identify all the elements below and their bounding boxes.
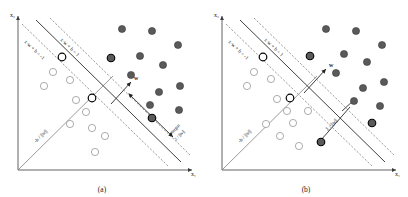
normal-vector-arrow bbox=[111, 82, 131, 104]
upper-margin-line bbox=[254, 18, 394, 155]
negative-support-vectors bbox=[259, 53, 294, 102]
x-axis-label: x₁ bbox=[395, 171, 400, 177]
panel-a-caption: (a) bbox=[0, 185, 204, 194]
upper-margin-line bbox=[50, 18, 190, 155]
origin-offset-line bbox=[223, 76, 317, 169]
origin-offset-line bbox=[19, 76, 113, 169]
svm-margin-figure: w x·w + b = 1 x·w + b = -1 -b / ||w|| ma… bbox=[0, 0, 408, 197]
lower-margin-equation: x·w + b = -1 bbox=[227, 38, 250, 61]
y-axis-label: x₂ bbox=[214, 12, 219, 18]
origin-offset-label: -b / ||w|| bbox=[236, 128, 252, 144]
lower-margin-equation: x·w + b = -1 bbox=[23, 38, 46, 61]
positive-support-vectors bbox=[107, 54, 156, 122]
positive-class-points bbox=[118, 25, 183, 113]
panel-a-plot: w x·w + b = 1 x·w + b = -1 -b / ||w|| ma… bbox=[0, 0, 204, 197]
misclassified-point bbox=[317, 138, 325, 146]
panel-b: w ξ / ||w|| x·w + b = 1 x·w + b = -1 -b … bbox=[204, 0, 408, 197]
panel-a: w x·w + b = 1 x·w + b = -1 -b / ||w|| ma… bbox=[0, 0, 204, 197]
origin-offset-label: -b / ||w|| bbox=[32, 128, 48, 144]
normal-vector-label: w bbox=[329, 62, 334, 68]
slack-label: ξ / ||w|| bbox=[324, 117, 339, 132]
y-axis-label: x₂ bbox=[10, 12, 15, 18]
panel-b-caption: (b) bbox=[204, 185, 408, 194]
positive-support-vectors bbox=[306, 52, 376, 146]
normal-vector-arrow bbox=[304, 69, 326, 93]
panel-b-plot: w ξ / ||w|| x·w + b = 1 x·w + b = -1 -b … bbox=[204, 0, 408, 197]
normal-vector-label: w bbox=[134, 75, 139, 81]
x-axis-label: x₁ bbox=[191, 171, 196, 177]
